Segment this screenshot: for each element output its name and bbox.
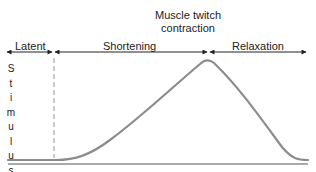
twitch-curve [8,60,308,160]
twitch-diagram [0,0,316,172]
